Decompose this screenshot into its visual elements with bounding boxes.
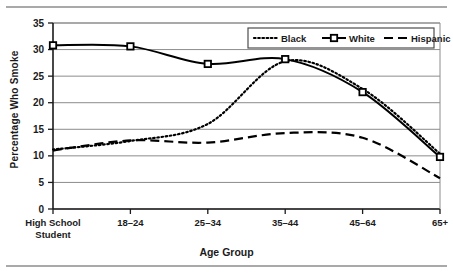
data-point-marker	[127, 43, 133, 49]
y-tick-label: 0	[38, 204, 44, 215]
legend-label-hispanic: Hispanic	[411, 33, 451, 44]
bottom-rule	[6, 265, 447, 267]
axes	[53, 23, 440, 209]
y-tick-label: 30	[33, 44, 45, 55]
y-tick-label: 15	[33, 124, 45, 135]
data-series-group	[50, 42, 443, 178]
x-tick-label: 18–24	[117, 217, 144, 228]
data-point-marker	[205, 61, 211, 67]
legend-label-white: White	[349, 33, 375, 44]
data-point-marker	[50, 42, 56, 48]
x-tick-label: 65+	[432, 217, 449, 228]
line-chart: 05101520253035High SchoolStudent18–2425–…	[0, 10, 453, 260]
x-tick-label: Student	[35, 229, 71, 240]
y-tick-label: 35	[33, 18, 45, 29]
x-tick-label: 35–44	[272, 217, 299, 228]
data-point-marker	[359, 89, 365, 95]
y-tick-label: 20	[33, 97, 45, 108]
data-point-marker	[437, 154, 443, 160]
x-tick-label: 25–34	[195, 217, 222, 228]
legend-label-black: Black	[281, 33, 307, 44]
figure-container: Percentage Who Smoke Age Group 051015202…	[0, 0, 453, 276]
data-point-marker	[282, 56, 288, 62]
series-line-hispanic	[53, 132, 440, 178]
x-axis-ticks: High SchoolStudent18–2425–3435–4445–6465…	[25, 209, 448, 240]
chart-plot-area: 05101520253035High SchoolStudent18–2425–…	[0, 10, 453, 260]
top-rule	[6, 6, 447, 8]
y-tick-label: 10	[33, 150, 45, 161]
legend-marker	[331, 35, 337, 41]
x-tick-label: 45–64	[349, 217, 376, 228]
y-tick-label: 5	[38, 177, 44, 188]
legend: BlackWhiteHispanic	[248, 28, 451, 48]
x-tick-label: High School	[25, 217, 80, 228]
series-line-white	[53, 45, 440, 157]
y-tick-label: 25	[33, 71, 45, 82]
